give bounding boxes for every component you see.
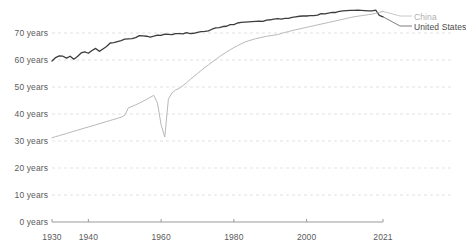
x-axis-tick-1940: 1940 bbox=[68, 232, 108, 243]
y-axis-tick-50: 50 years bbox=[0, 82, 48, 92]
life-expectancy-chart: 70 years 60 years 50 years 40 years 30 y… bbox=[0, 0, 466, 249]
y-tick-label: 60 years bbox=[15, 55, 48, 65]
series-line-china bbox=[52, 11, 383, 137]
x-tick-label: 1960 bbox=[141, 232, 181, 243]
y-tick-label: 20 years bbox=[15, 163, 48, 173]
x-axis-tick-1930: 1930 bbox=[32, 232, 72, 243]
x-axis-tick-2000: 2000 bbox=[287, 232, 327, 243]
x-tick-label: 2021 bbox=[363, 232, 403, 243]
y-axis-tick-10: 10 years bbox=[0, 190, 48, 200]
x-tick-label: 1930 bbox=[32, 232, 72, 243]
x-tick-label: 1980 bbox=[214, 232, 254, 243]
legend-item-united-states[interactable]: United States bbox=[414, 22, 466, 32]
y-tick-label: 40 years bbox=[15, 109, 48, 119]
y-axis-tick-60: 60 years bbox=[0, 55, 48, 65]
series-line-united-states bbox=[52, 10, 383, 61]
x-axis-tick-1980: 1980 bbox=[214, 232, 254, 243]
y-axis-tick-20: 20 years bbox=[0, 163, 48, 173]
x-axis-tick-1960: 1960 bbox=[141, 232, 181, 243]
y-axis-tick-40: 40 years bbox=[0, 109, 48, 119]
legend-item-china[interactable]: China bbox=[414, 12, 437, 22]
x-tick-label: 2000 bbox=[287, 232, 327, 243]
y-tick-label: 10 years bbox=[15, 190, 48, 200]
y-axis-tick-30: 30 years bbox=[0, 136, 48, 146]
y-axis-tick-0: 0 years bbox=[0, 217, 48, 227]
y-tick-label: 50 years bbox=[15, 82, 48, 92]
x-tick-label: 1940 bbox=[68, 232, 108, 243]
y-tick-label: 30 years bbox=[15, 136, 48, 146]
x-axis-tick-2021: 2021 bbox=[363, 232, 403, 243]
legend-leader-united-states bbox=[383, 17, 412, 26]
chart-plot-area bbox=[0, 0, 466, 249]
y-tick-label: 0 years bbox=[19, 217, 48, 227]
legend-leader-china bbox=[383, 11, 412, 16]
y-axis-tick-70: 70 years bbox=[0, 28, 48, 38]
y-tick-label: 70 years bbox=[15, 28, 48, 38]
